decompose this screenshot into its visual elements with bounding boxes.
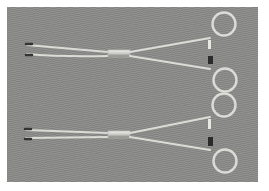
forceps-photo [7, 7, 258, 182]
forceps-illustration [7, 7, 258, 182]
lower-forceps [25, 94, 237, 173]
upper-forceps [26, 13, 237, 92]
